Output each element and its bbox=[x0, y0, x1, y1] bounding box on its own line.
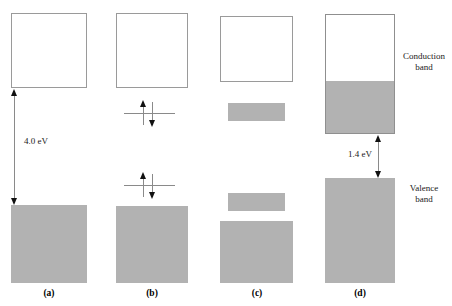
panel-d-gap-arrow-head-down bbox=[375, 171, 381, 178]
panel-c-upper-narrow-filled-band bbox=[228, 103, 285, 121]
panel-b-lower-spin-up-head bbox=[140, 172, 146, 179]
panel-c-lower-filled-band bbox=[220, 221, 293, 283]
valence-band-label-line1: Valence bbox=[410, 183, 438, 193]
conduction-band-label: Conduction band bbox=[401, 51, 447, 73]
panel-b-lower-spin-level-line bbox=[124, 185, 175, 186]
conduction-band-label-line2: band bbox=[415, 62, 433, 72]
panel-d-gap-arrow-shaft bbox=[378, 139, 379, 173]
valence-band-label: Valence band bbox=[403, 183, 445, 205]
panel-c-upper-empty-band bbox=[220, 16, 293, 82]
conduction-band-label-line1: Conduction bbox=[403, 51, 445, 61]
panel-b-lower-filled-band bbox=[116, 206, 188, 283]
panel-a-upper-empty-band bbox=[11, 13, 87, 88]
panel-label-d: (d) bbox=[340, 288, 380, 299]
panel-label-a: (a) bbox=[29, 288, 69, 299]
valence-band-label-line2: band bbox=[415, 194, 433, 204]
panel-d-conduction-band-fill bbox=[326, 81, 394, 133]
panel-d-valence-band bbox=[325, 178, 395, 283]
panel-b-upper-spin-up-head bbox=[140, 100, 146, 107]
panel-b-lower-spin-down-head bbox=[149, 192, 155, 199]
panel-a-gap-arrow-head-down bbox=[11, 198, 17, 205]
panel-label-b: (b) bbox=[132, 288, 172, 299]
panel-label-c: (c) bbox=[237, 288, 277, 299]
panel-a-lower-filled-band bbox=[11, 205, 87, 283]
panel-a-gap-arrow-head-up bbox=[11, 89, 17, 96]
panel-d-gap-arrow-head-up bbox=[375, 135, 381, 142]
panel-b-upper-empty-band bbox=[116, 13, 188, 88]
panel-c-lower-narrow-filled-band bbox=[228, 193, 285, 211]
energy-band-figure: 4.0 eV (a) (b) (c) Conduction band 1.4 e… bbox=[0, 0, 452, 306]
panel-d-conduction-band bbox=[325, 14, 395, 134]
panel-a-gap-arrow-shaft bbox=[14, 92, 15, 202]
panel-d-gap-label: 1.4 eV bbox=[348, 149, 372, 160]
panel-b-upper-spin-level-line bbox=[124, 113, 175, 114]
panel-b-upper-spin-down-head bbox=[149, 120, 155, 127]
panel-a-gap-label: 4.0 eV bbox=[24, 136, 48, 147]
